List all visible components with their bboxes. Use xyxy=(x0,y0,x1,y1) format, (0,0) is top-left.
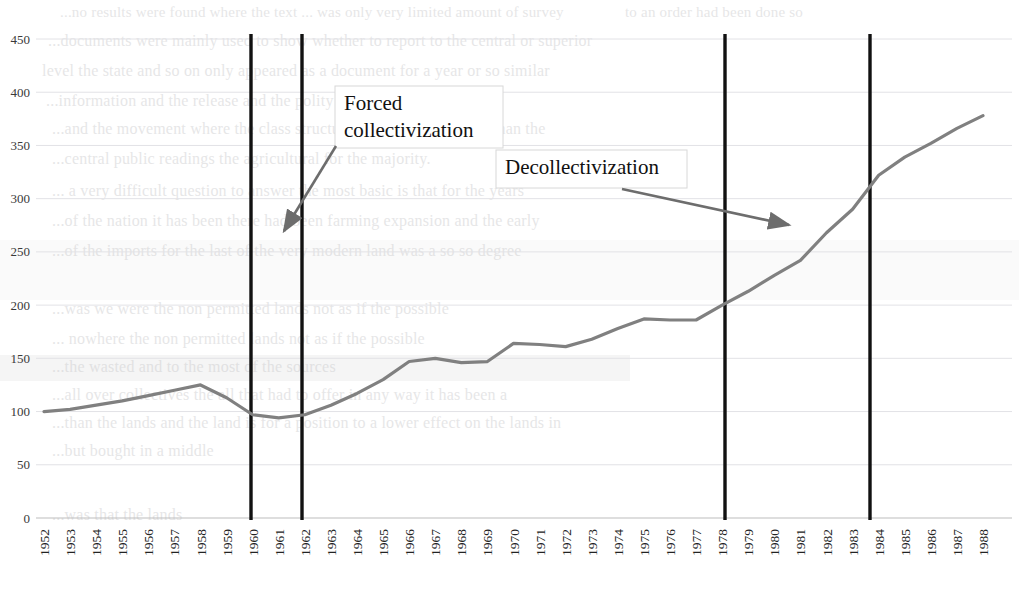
x-axis-tick-label: 1960 xyxy=(246,529,261,556)
y-axis-tick-labels: 050100150200250300350400450 xyxy=(11,32,31,526)
x-axis-tick-label: 1957 xyxy=(167,529,182,556)
y-axis-tick-label: 50 xyxy=(17,457,30,472)
x-axis-tick-label: 1981 xyxy=(793,529,808,556)
x-axis-tick-label: 1977 xyxy=(689,529,704,556)
x-axis-tick-label: 1978 xyxy=(715,529,730,556)
x-axis-tick-label: 1963 xyxy=(324,529,339,556)
x-axis-tick-label: 1962 xyxy=(298,529,313,556)
x-axis-tick-label: 1954 xyxy=(89,529,104,556)
x-axis-tick-label: 1985 xyxy=(898,529,913,556)
x-axis-tick-label: 1959 xyxy=(220,529,235,556)
annotation-label: Forced xyxy=(344,91,403,115)
x-axis-tick-label: 1953 xyxy=(63,529,78,556)
x-axis-tick-label: 1979 xyxy=(741,529,756,556)
y-axis-tick-label: 200 xyxy=(11,298,31,313)
x-axis-tick-label: 1987 xyxy=(950,529,965,556)
y-axis-tick-label: 0 xyxy=(24,511,31,526)
x-axis-tick-label: 1980 xyxy=(767,529,782,556)
x-axis-tick-label: 1964 xyxy=(350,529,365,556)
x-axis-tick-label: 1970 xyxy=(507,529,522,556)
x-axis-tick-label: 1956 xyxy=(141,529,156,556)
x-axis-tick-label: 1973 xyxy=(585,529,600,556)
annotation-label: Decollectivization xyxy=(505,155,659,179)
x-axis-tick-label: 1976 xyxy=(663,529,678,556)
x-axis-tick-label: 1988 xyxy=(976,529,991,556)
x-axis-tick-label: 1972 xyxy=(559,529,574,556)
y-axis-tick-label: 350 xyxy=(11,138,31,153)
annotation-arrow xyxy=(284,146,336,231)
annotation-forced-collectivization: Forcedcollectivization xyxy=(284,86,503,231)
x-axis-tick-label: 1965 xyxy=(376,529,391,556)
x-axis-tick-label: 1983 xyxy=(846,529,861,556)
x-axis-tick-label: 1986 xyxy=(924,529,939,556)
x-axis-tick-label: 1968 xyxy=(454,529,469,556)
x-axis-tick-label: 1975 xyxy=(637,529,652,556)
x-axis-tick-label: 1984 xyxy=(872,529,887,556)
x-axis-tick-labels: 1952195319541955195619571958195919601961… xyxy=(37,529,991,556)
annotation-label: collectivization xyxy=(344,118,474,142)
x-axis-tick-label: 1966 xyxy=(402,529,417,556)
x-axis-tick-label: 1955 xyxy=(115,529,130,556)
x-axis-tick-label: 1967 xyxy=(428,529,443,556)
y-axis-tick-label: 250 xyxy=(11,244,31,259)
x-axis-tick-label: 1952 xyxy=(37,529,52,556)
x-axis-tick-label: 1958 xyxy=(194,529,209,556)
x-axis-tick-label: 1969 xyxy=(480,529,495,556)
chart-figure: ...no results were found where the text … xyxy=(0,0,1019,596)
gridlines-group xyxy=(36,39,1012,518)
y-axis-tick-label: 150 xyxy=(11,351,31,366)
line-chart-svg: 050100150200250300350400450 195219531954… xyxy=(0,0,1019,596)
x-axis-tick-label: 1982 xyxy=(820,529,835,556)
x-axis-tick-label: 1961 xyxy=(272,529,287,556)
annotation-arrow xyxy=(622,189,789,225)
x-axis-tick-label: 1974 xyxy=(611,529,626,556)
annotation-group: ForcedcollectivizationDecollectivization xyxy=(284,86,789,231)
x-axis-tick-label: 1971 xyxy=(533,529,548,556)
y-axis-tick-label: 300 xyxy=(11,191,31,206)
annotation-decollectivization: Decollectivization xyxy=(496,150,789,225)
y-axis-tick-label: 400 xyxy=(11,85,31,100)
y-axis-tick-label: 100 xyxy=(11,404,31,419)
y-axis-tick-label: 450 xyxy=(11,32,31,47)
